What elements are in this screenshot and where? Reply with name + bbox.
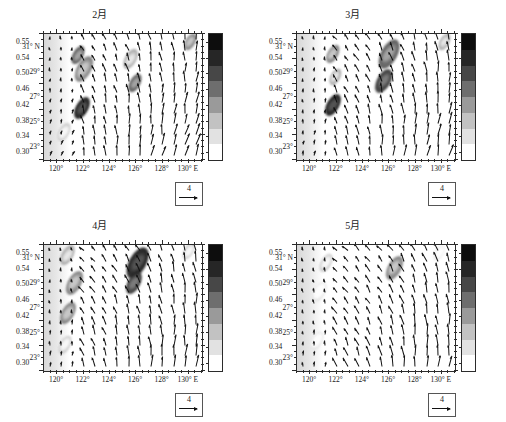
x-axis-tick	[395, 31, 396, 34]
current-vector	[390, 315, 393, 325]
colorbar-band	[462, 50, 475, 66]
current-vector	[78, 286, 84, 293]
x-axis-tick	[362, 29, 363, 33]
y-axis-tick	[201, 46, 204, 47]
y-axis-tick	[294, 250, 297, 251]
current-vector	[343, 276, 348, 283]
x-axis-label: 130° E	[430, 375, 451, 384]
current-vector	[345, 44, 348, 50]
current-vector	[159, 304, 163, 314]
current-vector	[104, 348, 107, 356]
y-axis-tick	[292, 109, 296, 110]
current-vector	[448, 282, 449, 293]
x-axis-tick	[388, 29, 389, 33]
y-axis-tick	[201, 282, 204, 283]
current-vector	[49, 341, 50, 345]
colorbar-band	[209, 324, 222, 340]
y-axis-tick	[292, 83, 296, 84]
current-vector	[313, 289, 314, 293]
x-axis-tick	[194, 370, 195, 373]
y-axis-tick	[454, 58, 458, 59]
current-vector	[314, 99, 316, 103]
y-axis-tick	[39, 244, 43, 245]
current-vector	[61, 141, 64, 145]
current-vector	[72, 120, 74, 124]
x-axis-tick	[56, 159, 57, 163]
current-vector	[411, 253, 416, 261]
y-axis-tick	[454, 121, 457, 122]
colorbar-tick	[206, 332, 209, 333]
colorbar-band	[209, 261, 222, 277]
x-axis-tick	[342, 159, 343, 162]
y-axis-tick	[201, 77, 204, 78]
colorbar-band	[209, 34, 222, 50]
current-vector	[368, 126, 371, 134]
y-axis-tick	[294, 39, 297, 40]
current-vector	[365, 244, 370, 250]
colorbar-tick	[206, 42, 209, 43]
current-vector	[72, 47, 73, 50]
current-vector	[127, 316, 129, 325]
current-vector	[147, 244, 151, 251]
x-axis-tick	[115, 159, 116, 162]
y-axis-tick	[201, 263, 204, 264]
current-vector	[147, 33, 152, 40]
x-axis-tick	[175, 242, 176, 245]
current-vector	[136, 284, 141, 293]
y-axis-tick	[454, 244, 458, 245]
current-vector	[72, 279, 73, 282]
current-vector	[173, 145, 177, 156]
current-vector	[72, 36, 73, 39]
colorbar-feb	[208, 33, 223, 161]
current-vector	[379, 337, 382, 345]
y-axis-label: 31° N	[255, 41, 293, 50]
current-vector	[333, 74, 337, 81]
current-vector	[104, 85, 106, 92]
y-axis-tick	[454, 370, 458, 371]
colorbar-band	[209, 97, 222, 113]
current-vector	[61, 151, 64, 155]
current-vector	[332, 44, 337, 50]
current-vector	[449, 313, 451, 324]
x-axis-tick	[109, 370, 110, 374]
current-vector	[93, 105, 96, 113]
panel-feb: 2月 4 0.550.540.500.460.420.380.340.30120…	[0, 0, 253, 211]
current-vector	[160, 33, 163, 40]
current-vector	[112, 265, 118, 272]
current-vector	[72, 57, 73, 60]
current-vector	[128, 94, 129, 103]
current-vector	[147, 252, 151, 261]
x-axis-tick	[129, 242, 130, 245]
y-axis-tick	[201, 39, 204, 40]
colorbar-band	[462, 129, 475, 145]
x-axis-label: 120°	[302, 164, 316, 173]
colorbar-band	[462, 355, 475, 371]
colorbar-band	[209, 113, 222, 129]
x-axis-tick	[102, 370, 103, 373]
y-axis-label: 29°	[255, 66, 293, 75]
current-vector	[434, 41, 438, 50]
current-vector	[325, 119, 327, 124]
y-axis-tick	[41, 276, 44, 277]
current-vector	[314, 341, 315, 345]
current-vector	[173, 52, 175, 61]
current-vector	[184, 294, 185, 303]
x-axis-label: 126°	[128, 164, 142, 173]
x-axis-tick	[129, 370, 130, 373]
x-axis-tick	[43, 159, 44, 162]
current-vector	[49, 321, 50, 325]
current-vector	[72, 68, 74, 72]
x-axis-tick	[43, 242, 44, 245]
x-axis-tick	[155, 370, 156, 373]
x-axis-tick	[434, 31, 435, 34]
x-axis-tick	[89, 159, 90, 162]
colorbar-tick	[206, 136, 209, 137]
current-vector	[449, 133, 451, 145]
current-vector	[125, 43, 129, 50]
current-vector	[379, 41, 382, 50]
y-axis-tick	[41, 140, 44, 141]
x-axis-tick	[168, 31, 169, 34]
y-axis-tick	[454, 250, 457, 251]
current-vector	[92, 85, 96, 92]
current-vector	[332, 278, 337, 283]
